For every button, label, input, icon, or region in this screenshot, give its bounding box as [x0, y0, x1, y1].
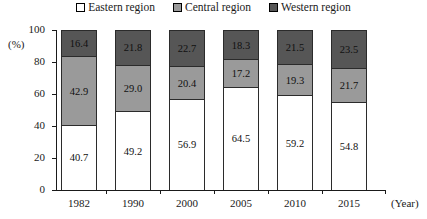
- x-axis-tick: [160, 190, 161, 194]
- y-axis-tick-label: 60: [34, 93, 45, 94]
- x-axis-label-2010: 2010: [265, 197, 325, 209]
- x-axis-tick: [106, 190, 107, 194]
- bar-segment-eastern: 64.5: [223, 87, 259, 190]
- bar-segment-eastern: 40.7: [61, 125, 97, 190]
- y-axis-tick-label: 0: [40, 189, 46, 190]
- y-axis-tick: 20: [52, 158, 57, 159]
- y-axis-tick: 60: [52, 94, 57, 95]
- y-axis-tick: 40: [52, 126, 57, 127]
- y-axis-tick-label: 100: [29, 29, 46, 30]
- chart-plot-area: 100 80 60 40 20 0 16.4 42.9 40.7 21.8 29…: [57, 30, 385, 190]
- bar-2015[interactable]: 23.5 21.7 54.8: [331, 30, 367, 190]
- bar-segment-western: 18.3: [223, 30, 259, 59]
- bar-2000[interactable]: 22.7 20.4 56.9: [169, 30, 205, 190]
- x-axis-label-1982: 1982: [49, 197, 109, 209]
- bar-segment-western: 23.5: [331, 30, 367, 68]
- legend-item-central: Central region: [173, 2, 251, 13]
- bar-segment-central: 20.4: [169, 66, 205, 99]
- y-axis-line: [56, 30, 57, 190]
- bar-1990[interactable]: 21.8 29.0 49.2: [115, 30, 151, 190]
- y-axis-tick: 80: [52, 62, 57, 63]
- bar-segment-central: 42.9: [61, 56, 97, 125]
- bar-2010[interactable]: 21.5 19.3 59.2: [277, 30, 313, 190]
- bar-segment-western: 16.4: [61, 30, 97, 56]
- bar-segment-eastern: 54.8: [331, 102, 367, 190]
- bar-segment-eastern: 56.9: [169, 99, 205, 190]
- y-axis-tick: 0: [52, 190, 57, 191]
- y-axis-tick: 100: [52, 30, 57, 31]
- x-axis-unit-label: (Year): [391, 197, 419, 209]
- legend-swatch-eastern-icon: [76, 3, 85, 12]
- legend-item-eastern: Eastern region: [76, 2, 155, 13]
- bar-segment-western: 22.7: [169, 30, 205, 66]
- x-axis-label-1990: 1990: [103, 197, 163, 209]
- x-axis-tick: [322, 190, 323, 194]
- legend-label-eastern: Eastern region: [88, 2, 155, 13]
- legend-item-western: Western region: [269, 2, 351, 13]
- bar-segment-central: 19.3: [277, 64, 313, 95]
- chart-legend: Eastern region Central region Western re…: [0, 2, 427, 13]
- bar-segment-central: 17.2: [223, 59, 259, 87]
- bar-segment-eastern: 49.2: [115, 111, 151, 190]
- x-axis-tick: [268, 190, 269, 194]
- legend-swatch-western-icon: [269, 3, 278, 12]
- bar-segment-central: 21.7: [331, 68, 367, 103]
- x-axis-label-2005: 2005: [211, 197, 271, 209]
- x-axis-tick: [214, 190, 215, 194]
- x-axis-label-2000: 2000: [157, 197, 217, 209]
- bar-segment-eastern: 59.2: [277, 95, 313, 190]
- x-axis-tick: [385, 190, 386, 194]
- bar-segment-central: 29.0: [115, 65, 151, 111]
- y-axis-tick-label: 40: [34, 125, 45, 126]
- bar-1982[interactable]: 16.4 42.9 40.7: [61, 30, 97, 190]
- bar-segment-western: 21.8: [115, 30, 151, 65]
- x-axis-label-2015: 2015: [319, 197, 379, 209]
- y-axis-unit-label: (%): [8, 38, 25, 50]
- y-axis-tick-label: 80: [34, 61, 45, 62]
- bar-2005[interactable]: 18.3 17.2 64.5: [223, 30, 259, 190]
- bar-segment-western: 21.5: [277, 30, 313, 64]
- legend-swatch-central-icon: [173, 3, 182, 12]
- legend-label-western: Western region: [281, 2, 351, 13]
- legend-label-central: Central region: [185, 2, 251, 13]
- y-axis-tick-label: 20: [34, 157, 45, 158]
